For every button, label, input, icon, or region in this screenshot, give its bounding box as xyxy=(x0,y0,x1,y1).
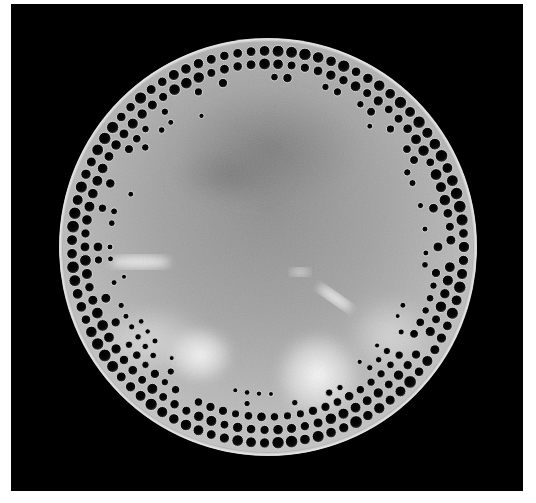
pore xyxy=(244,412,253,421)
pore xyxy=(383,347,390,354)
pore xyxy=(108,220,115,227)
pore xyxy=(118,302,124,308)
pore xyxy=(337,384,343,390)
pore xyxy=(220,420,229,429)
pore xyxy=(116,372,126,382)
pore xyxy=(219,433,229,443)
pore xyxy=(119,129,129,139)
pore xyxy=(193,58,204,69)
pore xyxy=(181,64,192,75)
pore xyxy=(85,283,95,293)
pore xyxy=(246,60,256,70)
pore xyxy=(147,100,157,110)
pore xyxy=(385,88,396,99)
pore xyxy=(446,235,456,245)
pore xyxy=(422,261,429,268)
pore xyxy=(270,413,279,422)
pore xyxy=(159,92,168,101)
pore xyxy=(152,338,158,344)
pore xyxy=(135,334,142,341)
pore xyxy=(138,319,144,325)
pore xyxy=(272,436,285,449)
pore xyxy=(273,424,284,435)
pore xyxy=(107,244,113,250)
pore xyxy=(259,438,269,448)
pore xyxy=(84,201,95,212)
pore xyxy=(246,47,256,57)
pore xyxy=(132,134,141,143)
pore xyxy=(339,76,349,86)
pore xyxy=(86,157,96,167)
pore xyxy=(373,388,383,398)
pore xyxy=(333,88,341,96)
pore xyxy=(233,62,243,72)
pore xyxy=(111,344,121,354)
pore xyxy=(363,89,372,98)
pore xyxy=(233,48,243,58)
pore xyxy=(394,96,407,109)
pore xyxy=(157,407,168,418)
pore xyxy=(206,54,216,64)
pore xyxy=(67,235,78,246)
pore xyxy=(411,134,422,145)
pore xyxy=(403,145,412,154)
pore xyxy=(194,411,205,422)
pore xyxy=(445,222,454,231)
pore xyxy=(411,350,420,359)
pore xyxy=(367,365,373,371)
pore xyxy=(417,202,423,208)
pore xyxy=(220,64,230,74)
pore xyxy=(373,96,383,106)
pore xyxy=(272,45,284,57)
pore xyxy=(338,60,350,72)
pore xyxy=(72,195,83,206)
pore xyxy=(69,275,81,287)
pore xyxy=(321,402,330,411)
pore xyxy=(456,268,467,279)
pore xyxy=(125,341,133,349)
pore xyxy=(232,410,240,418)
pore xyxy=(119,355,129,365)
pore xyxy=(400,302,406,308)
pore xyxy=(333,398,342,407)
pore xyxy=(446,175,458,187)
pore xyxy=(356,385,365,394)
pore xyxy=(259,58,271,70)
pore xyxy=(283,73,292,82)
pore xyxy=(107,360,119,372)
pore xyxy=(339,423,349,433)
pore xyxy=(384,105,393,114)
pore xyxy=(206,430,216,440)
pore xyxy=(377,370,385,378)
pore xyxy=(422,356,433,367)
pore xyxy=(312,430,324,442)
pore xyxy=(313,418,323,428)
pore xyxy=(454,281,466,293)
pore xyxy=(395,386,406,397)
pore xyxy=(193,72,205,84)
pore xyxy=(157,77,167,87)
pore xyxy=(423,250,429,256)
pore xyxy=(386,125,394,133)
pore xyxy=(170,400,180,410)
pore xyxy=(393,370,403,380)
pore xyxy=(326,427,337,438)
pore xyxy=(404,169,411,176)
pore xyxy=(124,145,133,154)
pore xyxy=(395,314,400,319)
pore xyxy=(395,351,403,359)
pore xyxy=(194,398,203,407)
pore xyxy=(430,169,442,181)
pore xyxy=(426,158,435,167)
pore xyxy=(72,288,83,299)
pore xyxy=(375,343,380,348)
diatom-valve xyxy=(0,0,536,503)
pore xyxy=(158,127,165,134)
pore xyxy=(123,313,129,319)
pore xyxy=(430,282,438,290)
pore xyxy=(97,320,109,332)
pore xyxy=(292,399,298,405)
pore xyxy=(285,435,298,448)
pore xyxy=(260,425,269,434)
pore xyxy=(80,242,90,252)
